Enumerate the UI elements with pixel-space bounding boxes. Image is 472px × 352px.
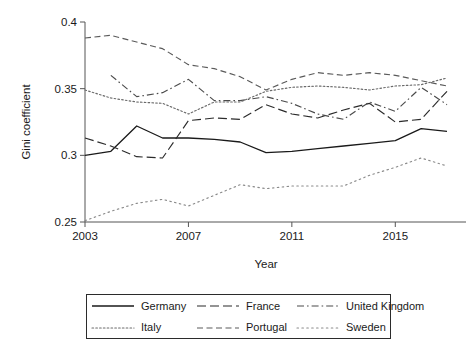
axis-labels: 0.250.30.350.42003200720112015Gini coeff… (20, 16, 408, 270)
legend-swatch-solid-icon (91, 301, 135, 311)
series-line-united-kingdom (111, 75, 447, 119)
legend-swatch-dash-icon (196, 323, 240, 333)
x-tick-label: 2011 (279, 230, 304, 242)
legend-label: France (246, 301, 280, 312)
x-tick-label: 2007 (176, 230, 202, 242)
legend-label: Germany (141, 301, 186, 312)
axis-layer (80, 22, 466, 227)
legend-item-italy[interactable]: Italy (87, 317, 192, 338)
legend-item-germany[interactable]: Germany (87, 295, 192, 317)
x-tick-label: 2003 (72, 230, 98, 242)
legend-swatch-sparse-dot-icon (296, 323, 340, 333)
series-line-germany (85, 126, 447, 155)
legend-item-france[interactable]: France (192, 295, 292, 317)
y-axis-title: Gini coefficient (20, 84, 32, 160)
y-tick-label: 0.25 (55, 216, 77, 228)
legend-swatch-long-dash-icon (196, 301, 240, 311)
legend-item-portugal[interactable]: Portugal (192, 317, 292, 338)
chart-legend: GermanyFranceUnited KingdomItalyPortugal… (86, 294, 391, 339)
y-tick-label: 0.3 (61, 149, 77, 161)
legend-item-united-kingdom[interactable]: United Kingdom (292, 295, 392, 317)
series-layer (85, 35, 447, 220)
series-line-sweden (85, 158, 447, 221)
chart-screenshot: 0.250.30.350.42003200720112015Gini coeff… (0, 0, 472, 352)
series-line-portugal (85, 35, 447, 90)
x-axis-title: Year (254, 258, 277, 270)
x-tick-label: 2015 (382, 230, 408, 242)
y-tick-label: 0.35 (55, 83, 77, 95)
legend-label: United Kingdom (346, 301, 424, 312)
legend-label: Italy (141, 322, 161, 333)
legend-swatch-dotted-icon (91, 323, 135, 333)
legend-swatch-dash-dot-icon (296, 301, 340, 311)
legend-label: Portugal (246, 322, 287, 333)
legend-grid: GermanyFranceUnited KingdomItalyPortugal… (87, 295, 390, 338)
y-tick-label: 0.4 (61, 16, 78, 28)
series-line-france (85, 91, 447, 158)
legend-item-sweden[interactable]: Sweden (292, 317, 392, 338)
legend-label: Sweden (346, 322, 386, 333)
